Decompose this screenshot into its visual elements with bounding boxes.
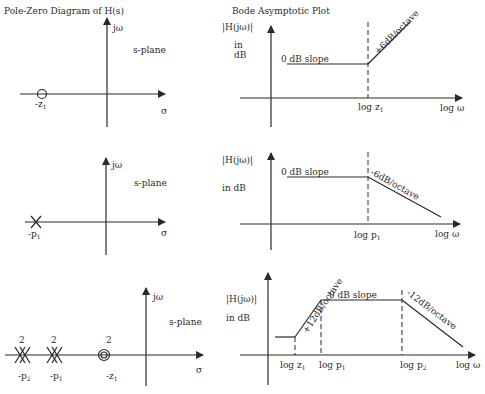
s-plane-label: s-plane xyxy=(134,178,167,188)
pole-label-p1: -p1 xyxy=(50,371,63,382)
break-label: log p1 xyxy=(354,230,381,241)
sigma-label: σ xyxy=(161,106,167,116)
in-label: in xyxy=(234,40,243,50)
bode-title: Bode Asymptotic Plot xyxy=(232,6,330,16)
zero-slope-label: 0 dB slope xyxy=(329,290,377,300)
break-label-z1: log z1 xyxy=(280,360,306,371)
log-w-label: log ω xyxy=(456,360,480,370)
break-label-p2: log p2 xyxy=(400,360,427,371)
zero-slope-label: 0 dB slope xyxy=(281,167,329,177)
row1-pole-zero: jω s-plane σ -z1 xyxy=(20,18,167,127)
s-plane-label: s-plane xyxy=(133,45,166,55)
row2-bode: |H(jω)| in dB 0 dB slope -6dB/octave log… xyxy=(222,152,460,250)
slope-label: +6dB/octave xyxy=(372,8,420,56)
rising-slope-label: +12dB/octave xyxy=(300,276,344,335)
slope-label: -6dB/octave xyxy=(369,167,421,202)
break-label: log z1 xyxy=(358,102,384,113)
zero-label: -z1 xyxy=(106,371,118,382)
order-label: 2 xyxy=(106,335,112,345)
zero-slope-label: 0 dB slope xyxy=(281,54,329,64)
zero-label: -z1 xyxy=(35,99,47,110)
falling-slope-label: -12dB/octave xyxy=(405,288,459,332)
break-label-p1: log p1 xyxy=(319,360,346,371)
row3-bode: |H(jω)| in dB +12dB/octave 0 dB slope -1… xyxy=(226,273,480,385)
pole-zero-title: Pole-Zero Diagram of H(s) xyxy=(4,6,124,16)
magnitude-label: |H(jω)| xyxy=(226,294,257,305)
row1-bode: |H(jω)| in dB 0 dB slope +6dB/octave log… xyxy=(222,8,464,127)
db-label: dB xyxy=(234,50,247,60)
sigma-label: σ xyxy=(196,365,202,375)
pole-zero-bode-diagram: Pole-Zero Diagram of H(s) Bode Asymptoti… xyxy=(0,0,485,394)
magnitude-label: |H(jω)| xyxy=(222,155,253,166)
sigma-label: σ xyxy=(161,228,167,238)
row3-pole-zero: jω s-plane σ 2 -p2 2 -p1 2 -z1 xyxy=(5,288,203,386)
order-label: 2 xyxy=(51,335,57,345)
jw-label: jω xyxy=(112,23,123,33)
log-w-label: log ω xyxy=(435,229,459,239)
in-db-label: in dB xyxy=(226,313,250,323)
row2-pole-zero: jω s-plane σ -p1 xyxy=(25,158,167,255)
in-db-label: in dB xyxy=(222,183,246,193)
pole-label: -p1 xyxy=(28,229,41,240)
magnitude-label: |H(jω)| xyxy=(222,22,253,33)
order-label: 2 xyxy=(19,335,25,345)
s-plane-label: s-plane xyxy=(169,317,202,327)
pole-label-p2: -p2 xyxy=(18,371,31,382)
log-w-label: log ω xyxy=(440,103,464,113)
jw-label: jω xyxy=(111,160,122,170)
jw-label: jω xyxy=(152,292,163,302)
